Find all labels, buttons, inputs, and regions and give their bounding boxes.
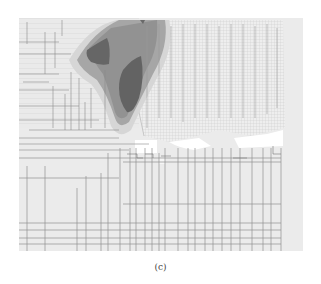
figure-caption: (c) bbox=[0, 262, 321, 272]
gap-region-1 bbox=[135, 140, 157, 153]
contour-mesh-plot bbox=[19, 18, 303, 251]
figure-panel: (c) bbox=[0, 0, 321, 284]
